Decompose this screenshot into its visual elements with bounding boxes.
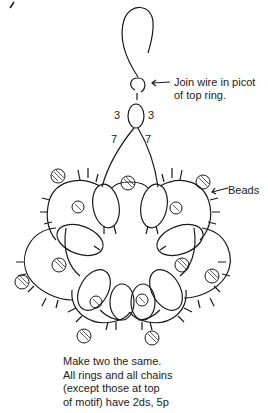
bead-icon — [51, 169, 65, 183]
bead-icon — [136, 294, 148, 306]
picot-loop — [131, 78, 145, 92]
join-wire-label-line1: Join wire in picot — [174, 76, 255, 89]
note-line: (except those at top — [63, 382, 172, 396]
top-ring-right-count: 3 — [148, 109, 154, 121]
note-line: of motif) have 2ds, 5p — [63, 396, 172, 410]
bead-icon — [175, 258, 189, 272]
bead-icon — [205, 269, 219, 283]
bead-icon — [72, 201, 84, 213]
bead-icon — [170, 202, 182, 214]
ear-wire — [122, 7, 153, 77]
instructions-note: Make two the same. All rings and all cha… — [63, 355, 172, 409]
bead-icon — [90, 296, 102, 308]
beads-label: Beads — [228, 184, 259, 197]
note-line: All rings and all chains — [63, 369, 172, 383]
bead-icon — [52, 258, 66, 272]
bead-icon — [196, 175, 210, 189]
chain-left-count: 7 — [111, 133, 117, 145]
join-wire-label: Join wire in picot of top ring. — [174, 76, 255, 102]
arrow-icon — [212, 188, 228, 194]
chain-left — [102, 128, 134, 187]
motif — [16, 168, 230, 330]
corner-mark — [10, 2, 14, 8]
bead-icon — [145, 331, 159, 345]
bead-icon — [15, 275, 29, 289]
top-ring — [128, 104, 144, 128]
note-line: Make two the same. — [63, 355, 172, 369]
tatting-earring-diagram — [0, 0, 268, 413]
chain-right-count: 7 — [145, 133, 151, 145]
arrow-icon — [152, 80, 170, 86]
top-ring-left-count: 3 — [114, 109, 120, 121]
join-wire-label-line2: of top ring. — [174, 89, 255, 102]
bead-icon — [77, 329, 91, 343]
